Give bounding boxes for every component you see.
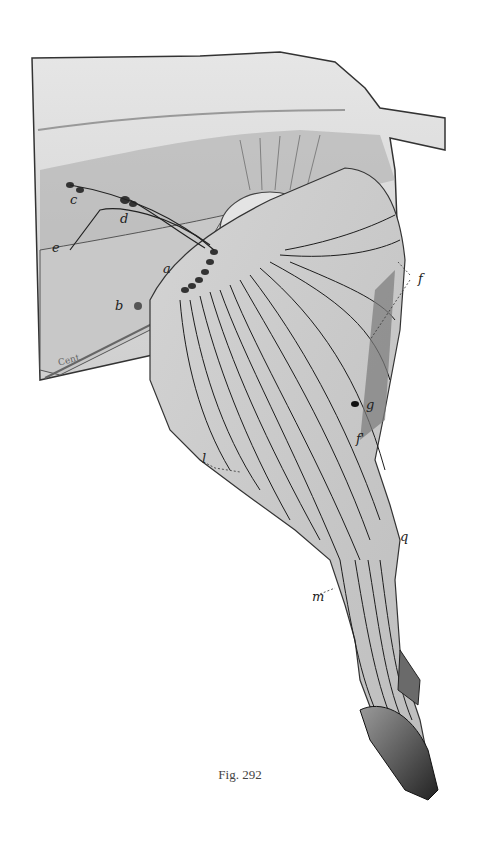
lymph-node-g	[351, 401, 359, 407]
label-a: a	[163, 262, 171, 275]
forelimb	[150, 168, 430, 790]
label-l: l	[202, 452, 206, 465]
label-m: m	[312, 590, 324, 603]
label-f: f	[418, 272, 423, 285]
label-b: b	[115, 299, 123, 312]
lymph-node-b	[134, 302, 142, 310]
figure-caption: Fig. 292	[0, 767, 480, 783]
label-q: q	[400, 530, 408, 543]
hoof	[360, 706, 438, 800]
label-d: d	[120, 212, 128, 225]
anatomical-figure: a b c d e f f' g l q m Cent	[0, 0, 480, 847]
label-c: c	[70, 193, 77, 206]
label-f-prime: f'	[356, 432, 364, 445]
label-e: e	[52, 241, 60, 254]
limb-lymphatics-illustration	[0, 0, 480, 847]
label-g: g	[366, 398, 374, 411]
